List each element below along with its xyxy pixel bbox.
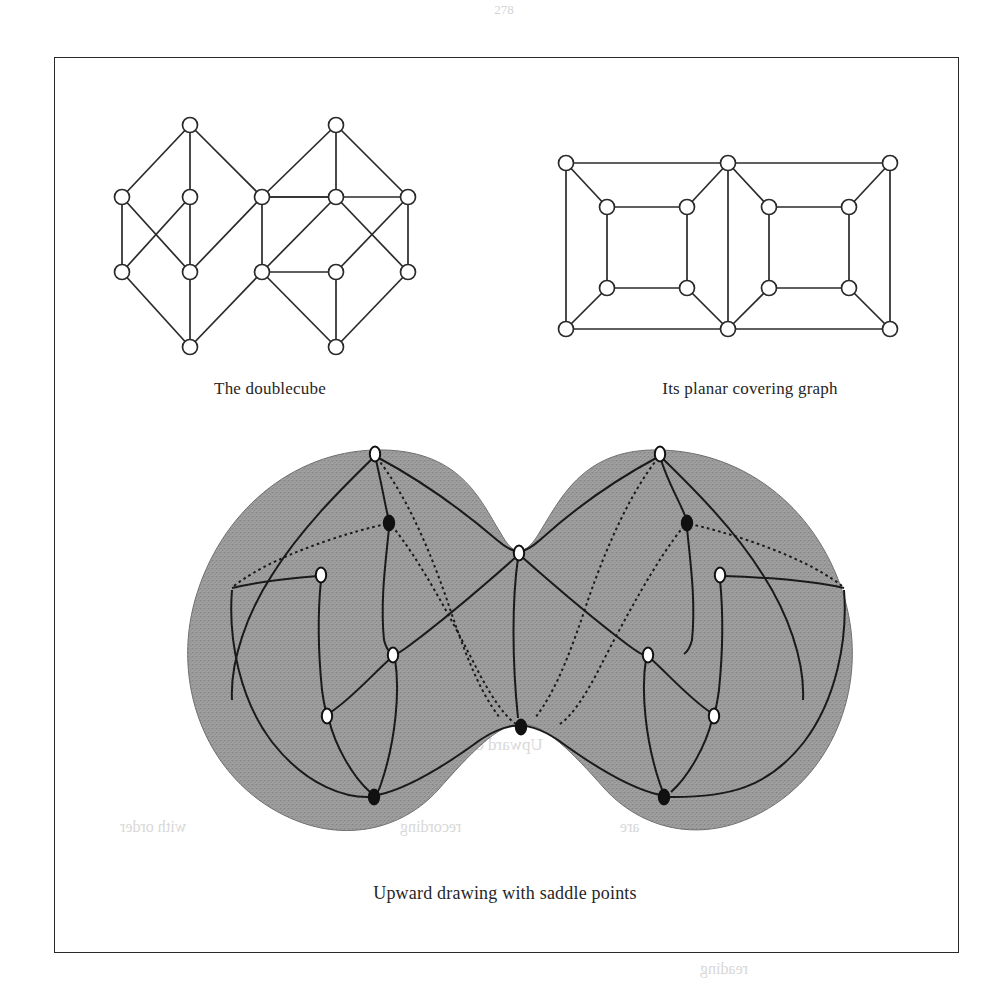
caption-planar-covering-graph: Its planar covering graph bbox=[570, 379, 930, 399]
caption-upward-drawing: Upward drawing with saddle points bbox=[240, 883, 770, 904]
caption-doublecube: The doublecube bbox=[90, 379, 450, 399]
figure-frame-box bbox=[54, 57, 959, 953]
